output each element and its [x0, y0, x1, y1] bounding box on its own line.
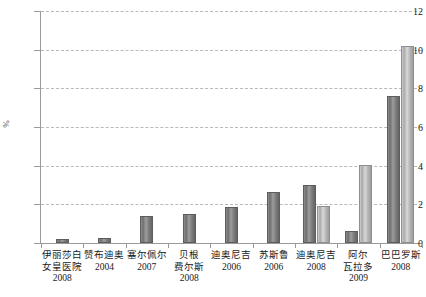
y-tick-mark: [34, 88, 41, 89]
bar: [225, 207, 238, 243]
y-tick-mark: [34, 243, 41, 244]
bar: [267, 192, 280, 243]
bar: [317, 206, 330, 243]
x-tick-mark: [41, 243, 42, 248]
bar-group: [253, 11, 295, 243]
bar: [345, 231, 358, 243]
x-tick-mark: [295, 243, 296, 248]
bar: [56, 239, 69, 243]
bar-group: [41, 11, 83, 243]
y-tick-mark: [34, 50, 41, 51]
bar: [359, 165, 372, 243]
x-tick-mark: [253, 243, 254, 248]
x-tick-mark: [422, 243, 423, 248]
x-tick-mark: [83, 243, 84, 248]
y-tick-mark: [34, 11, 41, 12]
bar: [140, 216, 153, 243]
bar-group: [295, 11, 337, 243]
bar-group: [168, 11, 210, 243]
x-tick-mark: [168, 243, 169, 248]
y-tick-mark: [34, 166, 41, 167]
x-tick-mark: [337, 243, 338, 248]
bar: [183, 214, 196, 243]
bar-group: [210, 11, 252, 243]
y-axis-title: %: [1, 120, 11, 128]
bar: [303, 185, 316, 243]
x-tick-mark: [210, 243, 211, 248]
bar-group: [380, 11, 422, 243]
bar: [401, 46, 414, 243]
x-axis-line: [40, 243, 422, 244]
plot-area: [41, 11, 422, 243]
bar-group: [337, 11, 379, 243]
bar-group: [126, 11, 168, 243]
y-tick-mark: [34, 204, 41, 205]
bar: [98, 238, 111, 243]
bar-group: [83, 11, 125, 243]
bar: [387, 96, 400, 243]
x-tick-mark: [380, 243, 381, 248]
y-tick-mark: [34, 127, 41, 128]
x-tick-mark: [126, 243, 127, 248]
x-tick-label: 巴巴罗斯2008: [376, 250, 426, 273]
